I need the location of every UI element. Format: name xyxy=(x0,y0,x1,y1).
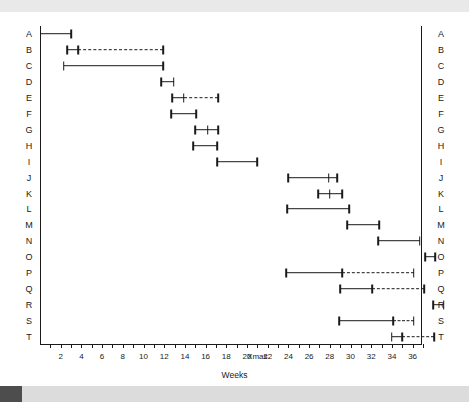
gantt-bar-f-solid xyxy=(171,113,196,114)
x-axis-minor-tick xyxy=(144,344,145,348)
gantt-bar-q-dashed xyxy=(372,288,424,289)
x-axis-minor-tick xyxy=(351,344,352,348)
row-label-j-right: J xyxy=(434,173,448,183)
x-axis-minor-tick xyxy=(112,344,113,348)
x-axis-tick-label: 6 xyxy=(100,352,104,361)
gantt-cap-g-start xyxy=(194,125,196,134)
gantt-cap-m-end xyxy=(379,221,381,230)
gantt-bar-i-solid xyxy=(217,161,257,162)
gantt-cap-n-start xyxy=(378,237,380,246)
x-axis-minor-tick xyxy=(206,344,207,348)
row-label-f-right: F xyxy=(434,109,448,119)
x-axis-minor-tick xyxy=(216,344,217,348)
x-axis-minor-tick xyxy=(164,344,165,348)
x-axis-minor-tick xyxy=(61,344,62,348)
gantt-cap-p-split xyxy=(341,269,343,278)
gantt-cap-r-end xyxy=(443,301,445,310)
x-axis-minor-tick xyxy=(288,344,289,348)
x-axis-line xyxy=(40,344,422,345)
x-axis-minor-tick xyxy=(340,344,341,348)
gantt-cap-p-end xyxy=(413,269,415,278)
x-axis-tick-label: 18 xyxy=(222,352,231,361)
x-axis-minor-tick xyxy=(195,344,196,348)
x-axis-minor-tick xyxy=(257,344,258,348)
x-axis-tick-label: 8 xyxy=(121,352,125,361)
row-label-a-right: A xyxy=(434,29,448,39)
row-label-b-left: B xyxy=(22,45,36,55)
row-label-p-right: P xyxy=(434,268,448,278)
gantt-cap-k-mid xyxy=(329,189,331,198)
row-label-q-right: Q xyxy=(434,284,448,294)
x-axis-minor-tick xyxy=(247,344,248,348)
row-label-q-left: Q xyxy=(22,284,36,294)
x-axis-minor-tick xyxy=(154,344,155,348)
x-axis-tick-label: 4 xyxy=(79,352,83,361)
row-label-c-left: C xyxy=(22,61,36,71)
row-label-s-left: S xyxy=(22,316,36,326)
gantt-cap-s-end xyxy=(413,317,415,326)
row-label-d-right: D xyxy=(434,77,448,87)
gantt-bar-l-solid xyxy=(287,209,349,210)
gantt-cap-a-end xyxy=(70,30,72,39)
gantt-cap-b-start xyxy=(66,45,68,54)
row-label-o-left: O xyxy=(22,252,36,262)
gantt-cap-s-split xyxy=(392,317,394,326)
gantt-bar-b-dashed xyxy=(78,49,163,50)
x-axis-minor-tick xyxy=(402,344,403,348)
gantt-cap-j-mid xyxy=(328,173,330,182)
x-axis-minor-tick xyxy=(237,344,238,348)
row-label-k-left: K xyxy=(22,189,36,199)
gantt-cap-e-start xyxy=(172,93,174,102)
gantt-cap-j-end xyxy=(336,173,338,182)
x-axis-minor-tick xyxy=(413,344,414,348)
gantt-cap-t-split xyxy=(401,333,403,342)
gantt-cap-e-end xyxy=(217,93,219,102)
x-axis-minor-tick xyxy=(361,344,362,348)
gantt-cap-e-split xyxy=(183,93,185,102)
gantt-bar-h-solid xyxy=(193,145,217,146)
row-label-s-right: S xyxy=(434,316,448,326)
gantt-cap-c-end xyxy=(162,61,164,70)
x-axis-minor-tick xyxy=(81,344,82,348)
row-label-h-left: H xyxy=(22,141,36,151)
x-axis-tick-label: 22 xyxy=(263,352,272,361)
x-axis-minor-tick xyxy=(226,344,227,348)
bottom-background-band xyxy=(0,386,469,402)
row-label-t-left: T xyxy=(22,332,36,342)
x-axis-tick-label: 30 xyxy=(346,352,355,361)
x-axis-minor-tick xyxy=(71,344,72,348)
row-label-h-right: H xyxy=(434,141,448,151)
row-label-k-right: K xyxy=(434,189,448,199)
row-label-e-left: E xyxy=(22,93,36,103)
gantt-cap-t-start xyxy=(391,333,393,342)
gantt-cap-f-end xyxy=(195,109,197,118)
gantt-cap-g-end xyxy=(217,125,219,134)
row-label-e-right: E xyxy=(434,93,448,103)
x-axis-tick-label: 32 xyxy=(367,352,376,361)
gantt-cap-q-start xyxy=(339,285,341,294)
x-axis-minor-tick xyxy=(299,344,300,348)
x-axis-minor-tick xyxy=(133,344,134,348)
x-axis-title: Weeks xyxy=(0,370,469,380)
gantt-bar-e-dashed xyxy=(184,97,218,98)
gantt-cap-m-start xyxy=(347,221,349,230)
gantt-cap-q-split xyxy=(371,285,373,294)
row-label-i-right: I xyxy=(434,157,448,167)
gantt-cap-i-end xyxy=(257,157,259,166)
gantt-bar-p-dashed xyxy=(342,272,413,273)
x-axis-tick-label: 36 xyxy=(408,352,417,361)
x-axis-minor-tick xyxy=(371,344,372,348)
top-background-band xyxy=(0,0,469,12)
row-label-g-left: G xyxy=(22,125,36,135)
x-axis-tick-label: 34 xyxy=(387,352,396,361)
row-label-m-left: M xyxy=(22,220,36,230)
x-axis-minor-tick xyxy=(102,344,103,348)
x-axis-minor-tick xyxy=(50,344,51,348)
gantt-cap-b-end xyxy=(162,45,164,54)
x-axis-tick-label: 14 xyxy=(180,352,189,361)
gantt-bar-a-solid xyxy=(40,33,71,34)
gantt-cap-f-start xyxy=(171,109,173,118)
row-label-r-left: R xyxy=(22,300,36,310)
gantt-cap-o-end xyxy=(435,253,437,262)
row-label-m-right: M xyxy=(434,220,448,230)
